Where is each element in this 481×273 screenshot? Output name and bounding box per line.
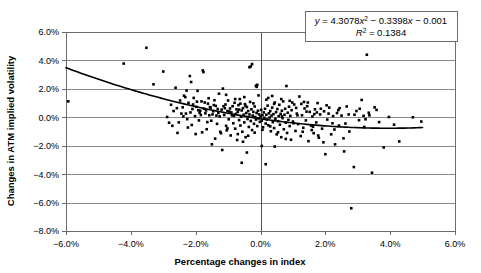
data-point-marker <box>250 108 253 111</box>
data-point-marker <box>266 104 269 107</box>
data-point-marker <box>122 62 125 65</box>
data-point-marker <box>343 150 346 153</box>
x-tick-label: 2.0% <box>315 239 336 249</box>
data-point-marker <box>213 104 216 107</box>
data-point-marker <box>171 125 174 128</box>
data-point-marker <box>200 114 203 117</box>
y-axis-title: Changes in ATM implied volatility <box>5 55 16 206</box>
data-point-marker <box>224 107 227 110</box>
data-point-marker <box>358 119 361 122</box>
data-point-marker <box>237 133 240 136</box>
data-point-marker <box>243 121 246 124</box>
data-point-marker <box>371 171 374 174</box>
data-point-marker <box>220 132 223 135</box>
data-point-marker <box>324 153 327 156</box>
data-point-marker <box>251 129 254 132</box>
data-point-marker <box>189 75 192 78</box>
data-point-marker <box>279 123 282 126</box>
data-point-marker <box>182 115 185 118</box>
data-point-marker <box>269 125 272 128</box>
data-point-marker <box>321 127 324 130</box>
equation-body: = 4.3078 <box>320 15 360 26</box>
data-point-marker <box>332 115 335 118</box>
data-point-marker <box>145 46 148 49</box>
data-point-marker <box>283 113 286 116</box>
data-point-marker <box>286 111 289 114</box>
data-point-marker <box>358 107 361 110</box>
data-point-marker <box>340 114 343 117</box>
data-point-marker <box>218 115 221 118</box>
data-point-marker <box>276 108 279 111</box>
data-point-marker <box>295 107 298 110</box>
data-point-marker <box>271 106 274 109</box>
data-point-marker <box>249 65 252 68</box>
data-point-marker <box>67 100 70 103</box>
data-point-marker <box>227 99 230 102</box>
data-point-marker <box>229 107 232 110</box>
data-point-marker <box>281 115 284 118</box>
data-point-marker <box>314 108 317 111</box>
data-point-marker <box>251 63 254 66</box>
data-point-marker <box>190 81 193 84</box>
data-point-marker <box>316 102 319 105</box>
data-point-marker <box>308 111 311 114</box>
data-point-marker <box>246 151 249 154</box>
data-point-marker <box>247 110 250 113</box>
data-point-marker <box>201 131 204 134</box>
data-point-marker <box>194 133 197 136</box>
data-point-marker <box>215 114 218 117</box>
data-point-marker <box>252 111 255 114</box>
data-point-marker <box>242 107 245 110</box>
data-point-marker <box>239 124 242 127</box>
data-point-marker <box>200 100 203 103</box>
data-point-marker <box>275 111 278 114</box>
data-point-marker <box>240 161 243 164</box>
data-point-marker <box>347 113 350 116</box>
data-point-marker <box>310 129 313 132</box>
data-point-marker <box>307 101 310 104</box>
data-point-marker <box>196 90 199 93</box>
data-point-marker <box>264 122 267 125</box>
data-point-marker <box>265 113 268 116</box>
data-point-marker <box>248 126 251 129</box>
data-point-marker <box>211 143 214 146</box>
data-point-marker <box>368 114 371 117</box>
y-tick-label: 0.0% <box>38 113 59 123</box>
data-point-marker <box>313 113 316 116</box>
equation-annotation: y = 4.3078x2 − 0.3398x − 0.001 R2 = 0.13… <box>305 11 457 41</box>
data-point-marker <box>236 139 239 142</box>
data-point-marker <box>168 121 171 124</box>
data-point-marker <box>284 138 287 141</box>
data-point-marker <box>367 111 370 114</box>
data-point-marker <box>306 105 309 108</box>
data-point-marker <box>246 118 249 121</box>
x-tick-label: 4.0% <box>380 239 401 249</box>
data-point-marker <box>279 113 282 116</box>
data-point-marker <box>179 99 182 102</box>
x-tick-label: −6.0% <box>53 239 79 249</box>
data-point-marker <box>307 140 310 143</box>
y-tick-label: 4.0% <box>38 56 59 66</box>
data-point-marker <box>271 95 274 98</box>
data-point-marker <box>345 105 348 108</box>
data-point-marker <box>186 118 189 121</box>
data-point-marker <box>184 96 187 99</box>
data-point-marker <box>326 118 329 121</box>
y-tick-label: −2.0% <box>33 141 59 151</box>
data-point-marker <box>244 105 247 108</box>
data-point-marker <box>323 110 326 113</box>
data-point-marker <box>303 101 306 104</box>
data-point-marker <box>197 109 200 112</box>
data-point-marker <box>303 107 306 110</box>
data-point-marker <box>249 101 252 104</box>
data-point-marker <box>162 70 165 73</box>
data-point-marker <box>264 107 267 110</box>
x-tick-label: 6.0% <box>445 239 466 249</box>
data-point-marker <box>222 87 225 90</box>
data-point-marker <box>315 121 318 124</box>
equation-line: y = 4.3078x2 − 0.3398x − 0.001 <box>314 15 447 27</box>
data-point-marker <box>289 115 292 118</box>
data-point-marker <box>206 121 209 124</box>
data-point-marker <box>225 94 228 97</box>
data-point-marker <box>214 137 217 140</box>
